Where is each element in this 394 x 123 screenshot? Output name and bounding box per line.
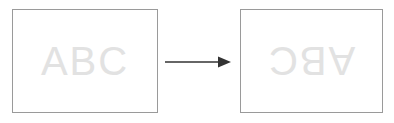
transform-arrow — [164, 50, 232, 74]
after-panel-text: ABC — [267, 41, 355, 81]
arrow-head-icon — [218, 57, 231, 68]
before-panel-text: ABC — [41, 41, 129, 81]
before-panel: ABC — [12, 9, 158, 113]
diagram-canvas: ABC ABC — [0, 0, 394, 123]
after-panel: ABC — [240, 9, 383, 113]
